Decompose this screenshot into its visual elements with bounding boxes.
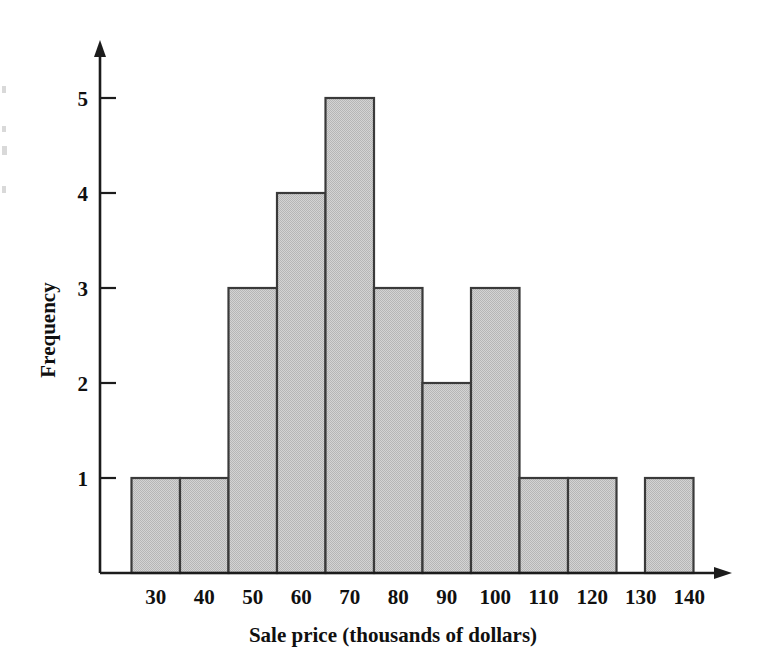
y-tick-label-5: 5 — [78, 87, 89, 111]
x-tick-label-110: 110 — [529, 585, 559, 609]
x-tick-label-30: 30 — [145, 585, 166, 609]
x-tick-label-40: 40 — [194, 585, 215, 609]
x-tick-label-100: 100 — [479, 585, 511, 609]
bar-120 — [568, 478, 617, 573]
bar-30 — [132, 478, 181, 573]
y-axis-title: Frequency — [36, 282, 60, 378]
scan-artifact-mark — [2, 146, 7, 155]
bar-90 — [423, 383, 472, 573]
x-axis-title: Sale price (thousands of dollars) — [249, 623, 537, 647]
y-tick-label-4: 4 — [78, 182, 89, 206]
bar-60 — [277, 193, 326, 573]
x-tick-label-70: 70 — [339, 585, 360, 609]
bar-40 — [180, 478, 229, 573]
x-tick-label-80: 80 — [388, 585, 409, 609]
x-tick-label-140: 140 — [673, 585, 705, 609]
x-tick-label-90: 90 — [436, 585, 457, 609]
scan-artifact-mark — [2, 86, 6, 93]
bar-80 — [374, 288, 423, 573]
histogram-chart: 1 2 3 4 5 Frequency 30 40 50 60 70 80 90… — [0, 0, 757, 664]
x-tick-label-130: 130 — [625, 585, 657, 609]
y-tick-label-3: 3 — [78, 277, 89, 301]
x-tick-label-60: 60 — [291, 585, 312, 609]
bar-110 — [520, 478, 569, 573]
x-tick-label-120: 120 — [576, 585, 608, 609]
x-tick-label-50: 50 — [242, 585, 263, 609]
scan-artifact-mark — [2, 126, 6, 132]
y-tick-label-1: 1 — [78, 467, 89, 491]
bar-100 — [471, 288, 520, 573]
bar-50 — [229, 288, 278, 573]
scan-artifact-mark — [2, 186, 6, 193]
y-tick-label-2: 2 — [78, 372, 89, 396]
bar-140 — [645, 478, 694, 573]
bar-70 — [326, 98, 375, 573]
histogram-figure: 1 2 3 4 5 Frequency 30 40 50 60 70 80 90… — [0, 0, 757, 664]
